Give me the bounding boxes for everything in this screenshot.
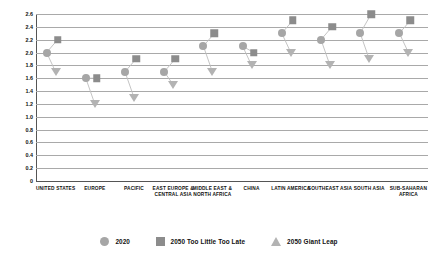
- group-connector-line: [321, 27, 332, 66]
- y-tick-label: 1.0: [26, 114, 34, 120]
- data-point-square: [407, 17, 415, 25]
- data-point-square: [328, 23, 336, 31]
- y-tick-label: 1.8: [26, 62, 34, 68]
- x-axis-category-labels: UNITED STATESEUROPEPACIFICEAST EUROPE & …: [36, 186, 428, 224]
- data-point-triangle: [325, 61, 335, 69]
- data-point-circle: [278, 29, 286, 37]
- y-tick-label: 2.2: [26, 37, 34, 43]
- y-tick-label: 2.6: [26, 11, 34, 17]
- circle-marker-icon: [100, 237, 109, 246]
- y-axis-tick-labels: 2.62.42.22.01.81.61.41.21.00.80.60.40.20: [0, 14, 33, 181]
- gridline: [36, 168, 428, 169]
- data-point-triangle: [129, 94, 139, 102]
- gridline: [36, 130, 428, 131]
- data-point-square: [289, 17, 297, 25]
- data-point-square: [132, 55, 140, 63]
- square-marker-icon: [156, 237, 165, 246]
- y-tick-label: 1.4: [26, 88, 34, 94]
- data-point-square: [250, 49, 258, 57]
- data-point-triangle: [90, 100, 100, 108]
- y-tick-label: 0.2: [26, 165, 34, 171]
- legend-item[interactable]: 2020: [100, 237, 130, 246]
- data-point-triangle: [247, 61, 257, 69]
- data-point-triangle: [51, 68, 61, 76]
- data-point-triangle: [286, 49, 296, 57]
- data-point-circle: [160, 68, 168, 76]
- gridline: [36, 53, 428, 54]
- data-point-square: [367, 10, 375, 18]
- chart-legend: 20202050 Too Little Too Late2050 Giant L…: [0, 237, 438, 246]
- legend-label: 2050 Giant Leap: [287, 238, 338, 245]
- data-point-circle: [199, 42, 207, 50]
- data-point-circle: [43, 49, 51, 57]
- data-point-circle: [395, 29, 403, 37]
- gridline: [36, 27, 428, 28]
- data-point-square: [211, 30, 219, 38]
- data-point-circle: [317, 36, 325, 44]
- data-point-triangle: [168, 81, 178, 89]
- gridline: [36, 155, 428, 156]
- axis-baseline: [36, 181, 428, 182]
- x-axis-label: SUB-SAHARAN AFRICA: [385, 186, 431, 198]
- y-tick-label: 0.8: [26, 127, 34, 133]
- data-point-square: [54, 36, 62, 44]
- gridline: [36, 40, 428, 41]
- data-point-circle: [82, 74, 90, 82]
- legend-label: 2050 Too Little Too Late: [171, 238, 246, 245]
- legend-item[interactable]: 2050 Giant Leap: [271, 237, 338, 246]
- gridline: [36, 117, 428, 118]
- y-tick-label: 2.0: [26, 50, 34, 56]
- data-point-triangle: [364, 55, 374, 63]
- data-point-square: [171, 55, 179, 63]
- y-tick-label: 1.6: [26, 75, 34, 81]
- triangle-marker-icon: [271, 237, 281, 246]
- y-tick-label: 0.6: [26, 139, 34, 145]
- data-point-circle: [121, 68, 129, 76]
- y-tick-label: 0: [30, 178, 33, 184]
- data-point-circle: [356, 29, 364, 37]
- data-point-circle: [239, 42, 247, 50]
- data-point-triangle: [207, 68, 217, 76]
- legend-item[interactable]: 2050 Too Little Too Late: [156, 237, 245, 246]
- plot-area: [36, 14, 428, 181]
- gridline: [36, 91, 428, 92]
- chart-container: 2.62.42.22.01.81.61.41.21.00.80.60.40.20…: [0, 0, 438, 255]
- legend-label: 2020: [115, 238, 130, 245]
- y-tick-label: 0.4: [26, 152, 34, 158]
- y-tick-label: 2.4: [26, 24, 34, 30]
- data-point-square: [93, 74, 101, 82]
- gridline: [36, 65, 428, 66]
- y-tick-label: 1.2: [26, 101, 34, 107]
- gridline: [36, 142, 428, 143]
- data-point-triangle: [403, 49, 413, 57]
